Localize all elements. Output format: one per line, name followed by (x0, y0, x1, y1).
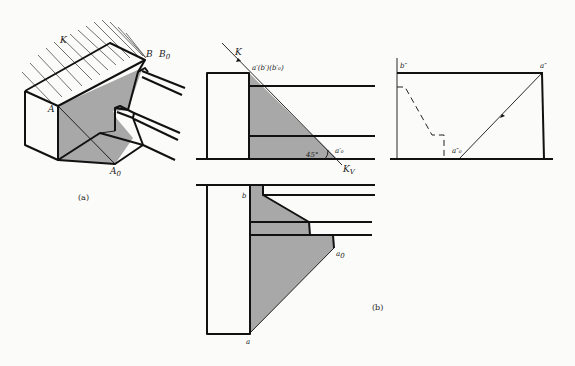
label-a: A (47, 104, 55, 114)
label-a0-double-prime: a″₀ (452, 147, 462, 155)
label-a0-plan: a0 (336, 250, 345, 260)
view-b-side-elevation: b″ a″ a″₀ (390, 58, 553, 159)
label-b-double-prime: b″ (400, 62, 407, 70)
shadow-construction-figure: K B B0 A A0 (a) K a′(b′)(b′₀) 45° a′₀ KV (0, 0, 575, 366)
label-b-plan: b (242, 192, 247, 200)
label-k-a: K (59, 35, 68, 45)
label-a0-prime: a′₀ (335, 147, 344, 155)
caption-a: (a) (78, 193, 89, 202)
caption-b: (b) (372, 303, 383, 312)
label-a0: A0 (109, 166, 122, 178)
shadow-area-plan (250, 185, 334, 333)
label-b: B (145, 49, 153, 59)
label-45deg: 45° (305, 151, 318, 159)
label-a-double-prime: a″ (540, 62, 547, 70)
label-kv: KV (342, 164, 356, 176)
label-a-b-b0-prime: a′(b′)(b′₀) (252, 64, 284, 72)
label-a-plan: a (246, 338, 250, 346)
label-k-front: K (234, 47, 243, 57)
label-b0: B0 (158, 49, 171, 61)
view-b-front-elevation: K a′(b′)(b′₀) 45° a′₀ KV (196, 43, 375, 176)
view-b-plan: b a a0 (b) (196, 185, 383, 346)
view-a-axonometric: K B B0 A A0 (a) (22, 20, 185, 202)
